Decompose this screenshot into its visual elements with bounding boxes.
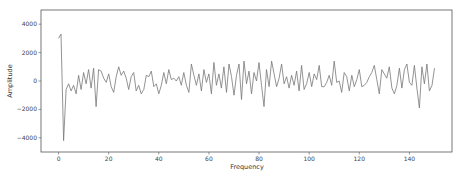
x-axis-ticks: 020406080100120140 [57,152,416,162]
y-tick-label: 2000 [22,49,37,56]
x-tick-label: 120 [354,155,366,162]
x-tick-label: 60 [205,155,213,162]
y-tick-label: −4000 [17,134,37,141]
chart: −4000−2000020004000 020406080100120140 F… [0,0,462,176]
x-tick-label: 0 [57,155,61,162]
x-tick-label: 40 [155,155,163,162]
y-tick-label: −2000 [17,105,37,112]
x-tick-label: 20 [105,155,113,162]
y-tick-label: 4000 [22,20,37,27]
y-axis-ticks: −4000−2000020004000 [17,20,41,141]
x-axis-label: Frequency [230,163,264,171]
x-tick-label: 80 [255,155,263,162]
x-tick-label: 140 [404,155,416,162]
x-tick-label: 100 [303,155,315,162]
y-axis-label: Amplitude [6,64,14,97]
y-tick-label: 0 [33,77,37,84]
